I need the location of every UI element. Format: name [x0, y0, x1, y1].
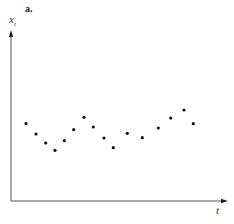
data-point: [44, 141, 47, 144]
data-point: [102, 136, 105, 139]
data-point: [157, 126, 160, 129]
y-axis-arrow-icon: [9, 30, 13, 37]
x-axis-arrow-icon: [221, 199, 228, 203]
data-point: [72, 128, 75, 131]
data-point: [34, 132, 37, 135]
data-point: [169, 116, 172, 119]
data-point: [112, 146, 115, 149]
data-point: [182, 108, 185, 111]
data-point: [82, 116, 85, 119]
data-point: [24, 122, 27, 125]
data-point: [53, 149, 56, 152]
data-points: [24, 108, 195, 151]
axes: [9, 30, 228, 203]
data-point: [63, 139, 66, 142]
data-point: [141, 136, 144, 139]
data-point: [126, 132, 129, 135]
scatter-plot: [0, 0, 234, 224]
data-point: [92, 125, 95, 128]
data-point: [192, 122, 195, 125]
